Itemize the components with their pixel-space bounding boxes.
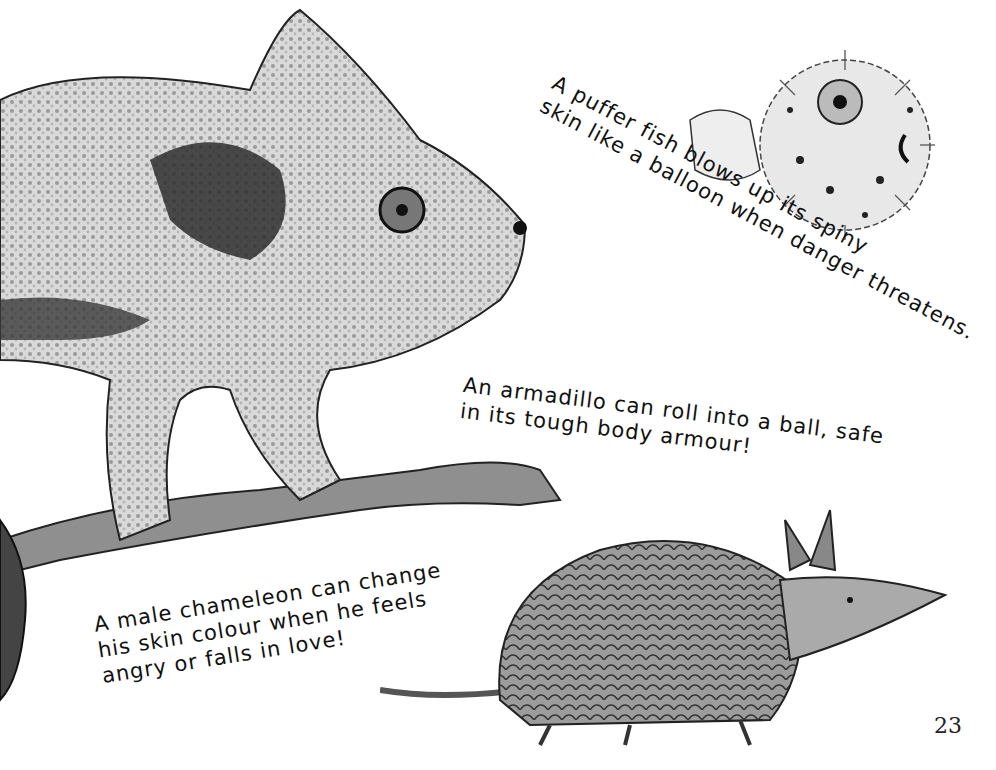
book-page: A puffer fish blows up its spiny skin li…: [0, 0, 996, 770]
page-number: 23: [934, 713, 962, 738]
armadillo-illustration: [380, 500, 970, 760]
